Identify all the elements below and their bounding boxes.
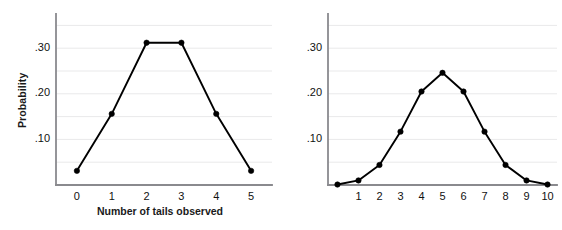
x-tick-label: 3: [390, 190, 410, 202]
data-point: [179, 40, 184, 45]
data-point: [377, 162, 382, 167]
data-point: [248, 168, 253, 173]
chart-panel-left: Probability Number of tails observed .10…: [0, 0, 281, 230]
y-tick-label: .10: [20, 132, 50, 144]
data-series-line: [337, 73, 547, 185]
x-tick-label: 6: [454, 190, 474, 202]
data-point: [214, 111, 219, 116]
x-tick-label: 1: [102, 190, 122, 202]
data-point: [524, 178, 529, 183]
chart-panel-right: Probability Number of tails observed .10…: [281, 0, 562, 230]
x-tick-label: 0: [67, 190, 87, 202]
x-tick-label: 5: [433, 190, 453, 202]
data-point: [482, 129, 487, 134]
y-axis-title-left: Probability: [16, 73, 28, 128]
data-point: [503, 162, 508, 167]
x-axis-title-left: Number of tails observed: [40, 205, 280, 217]
figure-container: Probability Number of tails observed .10…: [0, 0, 562, 230]
data-series-line: [77, 43, 251, 171]
x-tick-label: 10: [538, 190, 558, 202]
y-tick-label: .20: [20, 86, 50, 98]
data-point: [461, 89, 466, 94]
x-tick-label: 1: [348, 190, 368, 202]
y-tick-label: .10: [292, 132, 322, 144]
x-tick-label: 2: [369, 190, 389, 202]
y-tick-label: .30: [20, 41, 50, 53]
data-point: [74, 168, 79, 173]
data-point: [398, 129, 403, 134]
y-tick-label: .20: [292, 86, 322, 98]
x-tick-label: 7: [475, 190, 495, 202]
x-tick-label: 4: [411, 190, 431, 202]
data-point: [440, 70, 445, 75]
x-tick-label: 2: [137, 190, 157, 202]
x-tick-label: 8: [496, 190, 516, 202]
data-point: [144, 40, 149, 45]
data-point: [335, 182, 340, 187]
data-point: [109, 111, 114, 116]
y-tick-label: .30: [292, 41, 322, 53]
x-tick-label: 4: [206, 190, 226, 202]
x-tick-label: 9: [517, 190, 537, 202]
data-point: [545, 182, 550, 187]
x-tick-label: 5: [241, 190, 261, 202]
data-point: [356, 178, 361, 183]
data-point: [419, 89, 424, 94]
x-tick-label: 3: [171, 190, 191, 202]
